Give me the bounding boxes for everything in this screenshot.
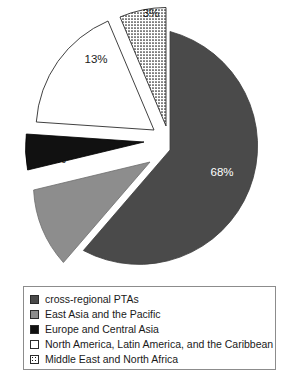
legend-item-cross-regional-ptas[interactable]: cross-regional PTAs bbox=[30, 292, 275, 307]
legend-item-north-america-latin-america-and-the-caribbean[interactable]: North America, Latin America, and the Ca… bbox=[30, 337, 275, 352]
legend-item-label: East Asia and the Pacific bbox=[45, 308, 161, 321]
pie-chart-svg: 68% 11% 5% 13% 3% bbox=[0, 0, 299, 278]
legend-item-middle-east-and-north-africa[interactable]: Middle East and North Africa bbox=[30, 352, 275, 367]
pie-slice-group-europe-and-central-asia bbox=[25, 134, 144, 170]
legend-item-label: North America, Latin America, and the Ca… bbox=[45, 338, 273, 351]
pie-slice-label-north-america-latin-america-and-the-caribbean: 13% bbox=[84, 53, 107, 65]
legend-item-east-asia-and-the-pacific[interactable]: East Asia and the Pacific bbox=[30, 307, 275, 322]
chart-legend: cross-regional PTAs East Asia and the Pa… bbox=[23, 286, 276, 370]
black-swatch-icon bbox=[30, 325, 39, 334]
dotted-swatch-icon bbox=[30, 355, 39, 364]
mid-gray-swatch-icon bbox=[30, 310, 39, 319]
dark-gray-swatch-icon bbox=[30, 295, 39, 304]
pie-slice-europe-and-central-asia bbox=[25, 134, 144, 170]
legend-item-europe-and-central-asia[interactable]: Europe and Central Asia bbox=[30, 322, 275, 337]
legend-item-label: cross-regional PTAs bbox=[45, 293, 139, 306]
pie-chart: 68% 11% 5% 13% 3% bbox=[0, 0, 299, 278]
legend-item-label: Middle East and North Africa bbox=[45, 353, 178, 366]
pie-slice-label-middle-east-and-north-africa: 3% bbox=[143, 7, 160, 19]
pie-slice-label-cross-regional-ptas: 68% bbox=[210, 166, 233, 178]
legend-item-label: Europe and Central Asia bbox=[45, 323, 159, 336]
white-swatch-icon bbox=[30, 340, 39, 349]
